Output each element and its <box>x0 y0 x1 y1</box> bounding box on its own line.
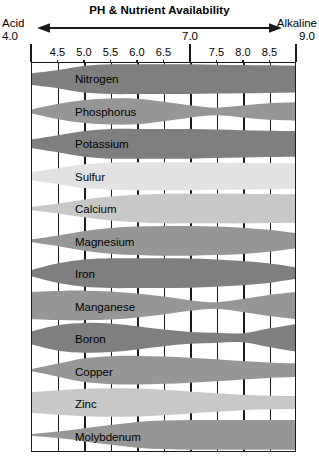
gridline <box>243 63 244 451</box>
gridline <box>111 63 112 451</box>
gridline <box>84 63 85 451</box>
page-title: PH & Nutrient Availability <box>0 4 319 16</box>
nutrient-label: Zinc <box>75 398 97 411</box>
axis-tick-label: 8.0 <box>235 46 250 58</box>
gridline <box>137 63 138 451</box>
axis-tick-mark <box>30 44 31 62</box>
axis-tick-label: 4.5 <box>50 46 65 58</box>
gridline <box>190 63 191 451</box>
gridline <box>217 63 218 451</box>
nutrient-label: Magnesium <box>75 235 134 248</box>
nutrient-label: Molybdenum <box>75 430 141 443</box>
nutrient-label: Manganese <box>75 300 135 313</box>
ph-nutrient-availability-chart: PH & Nutrient Availability Acid 4.0 Alka… <box>0 0 319 461</box>
alkaline-label: Alkaline <box>277 17 317 30</box>
axis-tick-label: 6.0 <box>129 46 144 58</box>
nutrient-label: Nitrogen <box>75 73 118 86</box>
acid-value: 4.0 <box>2 30 18 43</box>
nutrient-label: Calcium <box>75 203 117 216</box>
axis-tick-mark <box>295 44 296 62</box>
axis-tick-label: 6.5 <box>156 46 171 58</box>
axis-tick-mark <box>189 44 190 62</box>
gridline <box>270 63 271 451</box>
gridline <box>164 63 165 451</box>
acid-label: Acid <box>2 17 24 30</box>
axis-tick-label: 5.5 <box>103 46 118 58</box>
alkaline-value: 9.0 <box>299 30 315 43</box>
axis-tick-label: 5.0 <box>76 46 91 58</box>
axis-tick-label: 7.5 <box>209 46 224 58</box>
nutrient-label: Sulfur <box>75 170 105 183</box>
nutrient-band-plot: NitrogenPhosphorusPotassiumSulfurCalcium… <box>31 62 296 452</box>
nutrient-label: Boron <box>75 333 106 346</box>
nutrient-label: Iron <box>75 268 95 281</box>
ph-direction-arrow <box>37 22 282 34</box>
gridline <box>58 63 59 451</box>
nutrient-label: Phosphorus <box>75 105 136 118</box>
axis-tick-label: 8.5 <box>262 46 277 58</box>
nutrient-label: Copper <box>75 365 113 378</box>
nutrient-label: Potassium <box>75 138 129 151</box>
